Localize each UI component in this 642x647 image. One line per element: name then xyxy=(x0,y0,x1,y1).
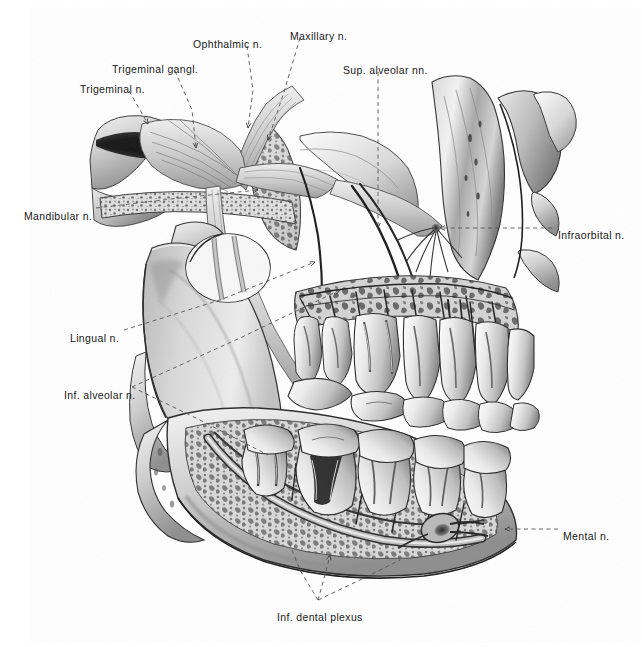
label-inf-alveolar-n: Inf. alveolar n. xyxy=(64,390,136,401)
label-sup-alveolar-nn: Sup. alveolar nn. xyxy=(343,65,428,76)
labels-layer: Ophthalmic n.Maxillary n.Sup. alveolar n… xyxy=(0,0,642,647)
label-infraorbital-n: Infraorbital n. xyxy=(558,230,625,241)
label-ophthalmic-n: Ophthalmic n. xyxy=(193,39,262,50)
label-mental-n: Mental n. xyxy=(563,531,609,542)
anatomical-figure-page: Ophthalmic n.Maxillary n.Sup. alveolar n… xyxy=(0,0,642,647)
label-lingual-n: Lingual n. xyxy=(70,333,119,344)
label-trigeminal-n: Trigeminal n. xyxy=(80,84,145,95)
label-mandibular-n: Mandibular n. xyxy=(24,211,92,222)
label-inf-dental-plexus: Inf. dental plexus xyxy=(277,612,363,623)
label-maxillary-n: Maxillary n. xyxy=(290,31,347,42)
label-trigeminal-gangl: Trigeminal gangl. xyxy=(112,64,198,75)
